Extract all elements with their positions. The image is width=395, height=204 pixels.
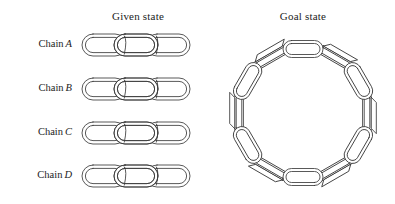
ring-link-flat bbox=[283, 169, 323, 186]
chain-row-a bbox=[82, 34, 190, 56]
chain-link bbox=[114, 34, 158, 56]
goal-state-title: Goal state bbox=[263, 10, 343, 22]
link-outer bbox=[283, 169, 323, 186]
chain-label-letter: B bbox=[64, 82, 72, 93]
chain-label-letter: A bbox=[64, 38, 72, 49]
chain-problem-figure: Given state Goal state ChainA ChainB Cha… bbox=[0, 0, 395, 204]
ring-link-flat bbox=[230, 59, 265, 102]
link-outer bbox=[341, 123, 376, 166]
chain-label-a: ChainA bbox=[10, 38, 72, 49]
chain-label-letter: C bbox=[63, 126, 72, 137]
chain-label-prefix: Chain bbox=[37, 169, 62, 180]
chain-label-c: ChainC bbox=[10, 126, 72, 137]
chain-row-d bbox=[82, 165, 190, 187]
ring-link-flat bbox=[341, 59, 376, 102]
chain-link bbox=[114, 165, 158, 187]
link-outer bbox=[230, 59, 265, 102]
chain-label-prefix: Chain bbox=[38, 126, 63, 137]
given-state-chains bbox=[82, 34, 190, 187]
ring-link-flat bbox=[230, 123, 265, 166]
chain-label-d: ChainD bbox=[10, 169, 72, 180]
given-state-title: Given state bbox=[98, 10, 178, 22]
link-outer bbox=[230, 123, 265, 166]
link-top-face bbox=[371, 97, 376, 133]
link-outer bbox=[283, 41, 323, 58]
link-top-face bbox=[230, 92, 235, 128]
chain-label-prefix: Chain bbox=[38, 38, 63, 49]
link-outer bbox=[341, 59, 376, 102]
chain-link bbox=[114, 122, 158, 144]
goal-state-ring bbox=[230, 39, 377, 187]
chain-link bbox=[114, 78, 158, 100]
chain-label-b: ChainB bbox=[10, 82, 72, 93]
chain-row-c bbox=[82, 122, 190, 144]
chain-label-prefix: Chain bbox=[38, 82, 63, 93]
chain-label-letter: D bbox=[62, 169, 72, 180]
ring-link-flat bbox=[283, 41, 323, 58]
chain-row-b bbox=[82, 78, 190, 100]
ring-link-flat bbox=[341, 123, 376, 166]
